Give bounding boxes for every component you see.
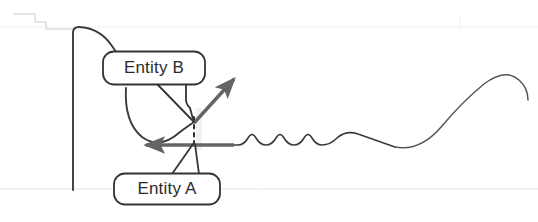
right-hump-curve	[395, 75, 528, 148]
arrows-group	[146, 79, 234, 145]
diagram-svg: Entity B Entity A	[0, 0, 538, 222]
entity-b-label: Entity B	[124, 58, 184, 77]
callout-entity-a[interactable]: Entity A	[114, 144, 220, 205]
entity-a-label: Entity A	[137, 179, 197, 198]
dip-curve	[126, 88, 194, 142]
faint-guides	[0, 14, 538, 189]
entity-b-tail-diagonal	[157, 84, 194, 122]
vertical-riser	[73, 27, 79, 190]
callout-entity-b[interactable]: Entity B	[103, 52, 205, 123]
wavy-bumps	[228, 133, 395, 147]
diagram-canvas: Entity B Entity A	[0, 0, 538, 222]
diagonal-arrow	[194, 79, 234, 123]
entity-a-tail-left	[172, 144, 193, 174]
